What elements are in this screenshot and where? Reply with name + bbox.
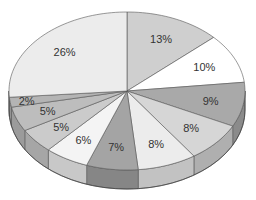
slice-label: 13%: [150, 33, 172, 45]
slice-label: 6%: [75, 134, 91, 146]
slice-label: 7%: [108, 141, 124, 153]
pie-chart-svg: 13%10%9%8%8%7%6%5%5%2%26%: [0, 0, 256, 200]
slice-label: 9%: [203, 95, 219, 107]
slice-label: 8%: [183, 122, 199, 134]
pie-slices: [9, 12, 245, 170]
slice-label: 2%: [19, 95, 35, 107]
slice-label: 5%: [53, 121, 69, 133]
slice-label: 5%: [40, 105, 56, 117]
slice-label: 26%: [54, 46, 76, 58]
slice-label: 10%: [193, 61, 215, 73]
slice-label: 8%: [148, 138, 164, 150]
